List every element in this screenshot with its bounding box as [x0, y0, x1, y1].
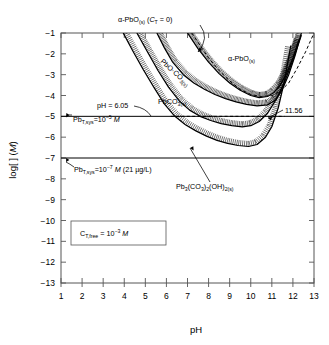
- y-tick-label: −13: [41, 278, 56, 288]
- x-tick-label: 3: [101, 291, 106, 301]
- y-tick-label: −12: [41, 257, 56, 267]
- label-ph-1156: 11.56: [285, 106, 302, 115]
- x-tick-label: 12: [288, 291, 298, 301]
- x-tick-label: 9: [227, 291, 232, 301]
- y-tick-label: −11: [41, 236, 55, 246]
- y-tick-label: −4: [45, 91, 55, 101]
- y-axis-label: log[ ] (M): [7, 141, 18, 179]
- x-tick-label: 13: [309, 291, 319, 301]
- y-tick-label: −2: [45, 49, 55, 59]
- x-tick-label: 7: [185, 291, 190, 301]
- x-tick-label: 1: [59, 291, 64, 301]
- y-tick-label: −1: [45, 28, 55, 38]
- x-tick-label: 5: [143, 291, 148, 301]
- x-tick-label: 8: [206, 291, 211, 301]
- y-tick-label: −6: [45, 132, 55, 142]
- y-tick-label: −9: [45, 195, 55, 205]
- x-tick-label: 2: [80, 291, 85, 301]
- x-tick-label: 10: [246, 291, 256, 301]
- x-tick-label: 6: [164, 291, 169, 301]
- label-pbt-1e-5: PbT,sys=10−5 M: [73, 114, 120, 125]
- label-alpha-pbo-ct0: α-PbO(s) (CT = 0): [118, 15, 172, 25]
- x-axis-label: pH: [190, 324, 202, 335]
- y-tick-label: −8: [45, 174, 55, 184]
- chart-svg: −1−2−3−4−5−6−7−8−9−10−11−12−13 123456789…: [0, 0, 329, 345]
- solubility-diagram-figure: −1−2−3−4−5−6−7−8−9−10−11−12−13 123456789…: [0, 0, 329, 345]
- x-tick-label: 4: [122, 291, 127, 301]
- y-tick-label: −10: [41, 216, 56, 226]
- label-ph-605: pH = 6.05: [97, 101, 128, 110]
- y-tick-label: −3: [45, 70, 55, 80]
- y-tick-label: −5: [45, 111, 55, 121]
- y-tick-label: −7: [45, 153, 55, 163]
- x-tick-label: 11: [267, 291, 276, 301]
